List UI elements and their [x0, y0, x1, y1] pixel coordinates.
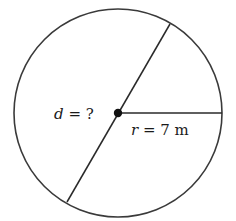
radius-value: 7 m: [160, 121, 189, 139]
diameter-label: d = ?: [54, 105, 94, 123]
center-point: [114, 109, 122, 117]
radius-label: r = 7 m: [131, 121, 189, 139]
diameter-value: ?: [86, 105, 94, 123]
diameter-variable: d: [54, 105, 64, 123]
circle-diagram: d = ? r = 7 m: [0, 0, 236, 221]
diameter-equals: =: [64, 105, 86, 123]
radius-equals: =: [138, 121, 160, 139]
